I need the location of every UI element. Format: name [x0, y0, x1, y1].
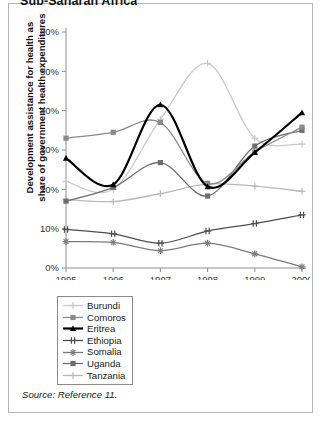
chart-title: Sub-Saharan Africa — [20, 0, 137, 8]
data-point-marker — [157, 240, 164, 246]
legend-swatch-square-icon — [62, 358, 84, 369]
legend-item-uganda[interactable]: Uganda — [62, 358, 126, 370]
legend-item-ethiopia[interactable]: Ethiopia — [62, 335, 126, 347]
legend-item-eritrea[interactable]: Eritrea — [62, 323, 126, 335]
series-somalia — [63, 238, 306, 270]
data-point-marker — [70, 315, 75, 320]
data-point-marker — [298, 212, 305, 218]
legend-swatch-plus-icon — [62, 370, 84, 381]
data-point-marker — [204, 60, 211, 67]
y-tick-label: 0% — [45, 262, 59, 273]
x-tick-label: 1998 — [197, 274, 218, 280]
data-point-marker — [204, 228, 211, 234]
legend-swatch-square-icon — [62, 312, 84, 323]
data-point-marker — [63, 199, 68, 204]
data-point-marker — [252, 143, 257, 148]
legend-label: Ethiopia — [87, 335, 122, 347]
chart-legend: BurundiComorosEritreaEthiopiaSomaliaUgan… — [57, 296, 133, 385]
data-point-marker — [299, 141, 306, 148]
data-point-marker — [204, 240, 211, 247]
data-point-marker — [205, 193, 210, 198]
source-note: Source: Reference 11. — [22, 389, 117, 400]
data-point-marker — [70, 361, 75, 366]
legend-label: Comoros — [87, 312, 126, 324]
plot-area: Development assistance for health as sha… — [14, 18, 310, 280]
data-point-marker — [251, 220, 258, 226]
data-point-marker — [299, 188, 306, 195]
legend-swatch-triangle-icon — [62, 323, 84, 334]
data-point-marker — [299, 263, 306, 270]
figure-panel: Sub-Saharan Africa Development assistanc… — [0, 0, 321, 423]
data-point-marker — [251, 250, 258, 257]
legend-label: Eritrea — [87, 323, 115, 335]
x-tick-label: 1995 — [55, 274, 76, 280]
legend-item-burundi[interactable]: Burundi — [62, 300, 126, 312]
data-point-marker — [63, 155, 69, 161]
x-tick-label: 1999 — [244, 274, 265, 280]
data-point-marker — [110, 231, 117, 237]
data-point-marker — [70, 372, 77, 379]
legend-label: Tanzania — [87, 370, 125, 382]
data-point-marker — [157, 190, 164, 197]
legend-label: Somalia — [87, 346, 122, 358]
x-tick-label: 1996 — [103, 274, 124, 280]
legend-swatch-doubleplus-icon — [62, 335, 84, 346]
series-comoros — [63, 120, 304, 186]
legend-swatch-plus-icon — [62, 300, 84, 311]
data-point-marker — [70, 349, 77, 356]
data-point-marker — [69, 337, 76, 343]
series-uganda — [63, 128, 304, 204]
legend-swatch-star-icon — [62, 347, 84, 358]
data-point-marker — [110, 239, 117, 246]
data-point-marker — [158, 160, 163, 165]
legend-item-comoros[interactable]: Comoros — [62, 312, 126, 324]
y-tick-label: 10% — [40, 223, 60, 234]
y-tick-label: 60% — [40, 26, 60, 37]
data-point-marker — [70, 302, 77, 309]
y-tick-label: 20% — [40, 184, 60, 195]
legend-item-tanzania[interactable]: Tanzania — [62, 370, 126, 382]
data-point-marker — [299, 109, 305, 115]
data-point-marker — [63, 136, 68, 141]
data-point-marker — [299, 125, 304, 130]
data-point-marker — [63, 238, 70, 245]
series-burundi — [63, 60, 306, 193]
x-tick-label: 1997 — [150, 274, 171, 280]
legend-label: Uganda — [87, 358, 121, 370]
data-point-marker — [63, 178, 70, 185]
y-tick-label: 40% — [40, 105, 60, 116]
y-tick-label: 30% — [40, 144, 60, 155]
data-point-marker — [251, 183, 258, 190]
data-point-marker — [111, 130, 116, 135]
legend-item-somalia[interactable]: Somalia — [62, 346, 126, 358]
data-point-marker — [158, 120, 163, 125]
line-chart-svg: 0%10%20%30%40%50%60%19951996199719981999… — [14, 18, 310, 280]
y-tick-label: 50% — [40, 66, 60, 77]
data-point-marker — [157, 247, 164, 254]
legend-label: Burundi — [87, 300, 120, 312]
x-tick-label: 2000 — [291, 274, 310, 280]
data-point-marker — [110, 198, 117, 205]
